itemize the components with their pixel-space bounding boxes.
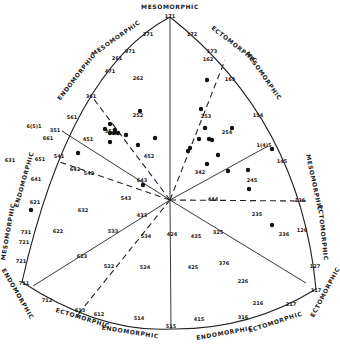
- edge-label-upper-right-b: MESOMORPHIC: [245, 50, 284, 101]
- data-point: [205, 162, 209, 166]
- data-point: [153, 136, 157, 140]
- data-point: [76, 151, 80, 155]
- somatotype-code-label: 661: [43, 135, 54, 141]
- somatotype-codes: 1712711723711734712611622623611635614512…: [5, 13, 322, 329]
- somatotype-code-label: 172: [187, 31, 198, 37]
- data-point: [247, 187, 251, 191]
- somatotype-code-label: 612: [94, 311, 105, 317]
- somatotype-code-label: 543: [121, 195, 132, 201]
- somatotype-code-label: 216: [253, 300, 264, 306]
- somatotype-code-label: 641: [31, 176, 42, 182]
- somatotype-code-label: 514: [134, 315, 145, 321]
- data-point: [216, 153, 220, 157]
- edge-label-left-bottom: ENDOMORPHIC: [1, 267, 36, 320]
- somatotype-code-label: 712: [42, 297, 53, 303]
- somatotype-code-label: 163: [225, 76, 236, 82]
- data-point: [136, 143, 140, 147]
- somatotype-code-label: 173: [207, 48, 218, 54]
- data-point: [199, 107, 203, 111]
- somatotype-code-label: 534: [141, 233, 152, 239]
- data-point: [141, 183, 145, 187]
- data-point: [210, 138, 214, 142]
- somatotype-code-label: 351: [50, 127, 61, 133]
- somatotype-code-label: 642: [70, 166, 81, 172]
- somatotype-code-label: 226: [238, 278, 249, 284]
- data-point: [124, 133, 128, 137]
- somatotype-code-label: 261: [112, 55, 123, 61]
- somatotype-code-label: 361: [86, 93, 97, 99]
- edge-label-bottom-right-b: ECTOMORPHIC: [247, 310, 302, 334]
- somatotype-code-label: 217: [286, 301, 297, 307]
- somatotype-code-label: 154: [253, 112, 264, 118]
- somatotype-code-label: 711: [19, 280, 30, 286]
- somatotype-code-label: 145: [277, 158, 288, 164]
- somatotype-code-label: 127: [310, 263, 321, 269]
- axes: [33, 17, 306, 329]
- somatotype-code-label: 352: [105, 128, 116, 134]
- somatotype-code-label: 254: [222, 129, 233, 135]
- edge-label-right-b: ECTOMORPHIC: [317, 205, 330, 261]
- somatotype-code-label: 371: [125, 48, 136, 54]
- somatotype-code-label: 271: [143, 31, 154, 37]
- somatotype-code-label: 721: [19, 239, 30, 245]
- somatotype-code-label: 435: [191, 233, 202, 239]
- somatotype-code-label: 433: [137, 212, 148, 218]
- data-point: [197, 137, 201, 141]
- somatotype-code-label: 631: [5, 157, 16, 163]
- data-point: [108, 122, 112, 126]
- somatotype-code-label: 452: [144, 153, 155, 159]
- somatotype-code-label: 621: [30, 199, 41, 205]
- edge-label-left-a: MESOMORPHIC: [0, 202, 16, 260]
- somatotype-code-label: 542: [84, 170, 95, 176]
- somatotype-code-label: 622: [53, 228, 64, 234]
- somatotype-code-label: 731: [21, 229, 32, 235]
- somatotype-code-label: 376: [219, 260, 230, 266]
- somatotype-code-label: 533: [108, 228, 119, 234]
- somatotype-code-label: 444: [208, 196, 219, 202]
- somatotype-code-label: 342: [195, 169, 206, 175]
- somatotype-code-label: 515: [166, 323, 177, 329]
- somatotype-chart: 1712711723711734712611622623611635614512…: [0, 0, 340, 348]
- vertex-label-top: MESOMORPHIC: [141, 3, 199, 10]
- somatotype-code-label: 522: [104, 263, 115, 269]
- somatotype-code-label: 721: [16, 258, 27, 264]
- somatotype-code-label: 171: [165, 13, 176, 19]
- data-point: [203, 126, 207, 130]
- data-point: [270, 223, 274, 227]
- somatotype-code-label: 6(5)1: [26, 123, 42, 129]
- somatotype-code-label: 541: [54, 153, 65, 159]
- somatotype-code-label: 325: [213, 229, 224, 235]
- somatotype-code-label: 561: [67, 114, 78, 120]
- somatotype-code-label: 643: [137, 177, 148, 183]
- somatotype-code-label: 262: [133, 75, 144, 81]
- somatotype-code-label: 424: [167, 231, 178, 237]
- somatotype-code-label: 425: [188, 264, 199, 270]
- somatotype-code-label: 136: [295, 197, 306, 203]
- data-point: [29, 208, 33, 212]
- somatotype-code-label: 126: [297, 227, 308, 233]
- somatotype-code-label: 245: [247, 177, 258, 183]
- data-point: [108, 140, 112, 144]
- somatotype-code-label: 471: [105, 68, 116, 74]
- somatotype-code-label: 415: [194, 316, 205, 322]
- somatotype-code-label: 623: [77, 253, 88, 259]
- somatotype-code-label: 451: [83, 136, 94, 142]
- somatotype-code-label: 236: [279, 231, 290, 237]
- triangle-outline: [22, 17, 316, 329]
- data-point: [205, 78, 209, 82]
- somatotype-code-label: 162: [203, 56, 214, 62]
- somatotype-code-label: 632: [78, 207, 89, 213]
- somatotype-code-label: 524: [140, 264, 151, 270]
- edge-label-right-a: MESOMORPHIC: [305, 153, 324, 211]
- edge-label-bottom-right-a: ENDOMORPHIC: [196, 324, 254, 341]
- somatotype-code-label: 253: [201, 113, 212, 119]
- data-point: [226, 169, 230, 173]
- edge-label-bottom-left-b: ENDOMORPHIC: [101, 324, 159, 340]
- somatotype-code-label: 316: [238, 314, 249, 320]
- data-point: [188, 146, 192, 150]
- somatotype-code-label: 1(4)5: [256, 142, 272, 148]
- data-point: [246, 168, 250, 172]
- somatotype-code-label: 651: [35, 156, 46, 162]
- somatotype-code-label: 235: [252, 211, 263, 217]
- somatotype-code-label: 252: [133, 112, 144, 118]
